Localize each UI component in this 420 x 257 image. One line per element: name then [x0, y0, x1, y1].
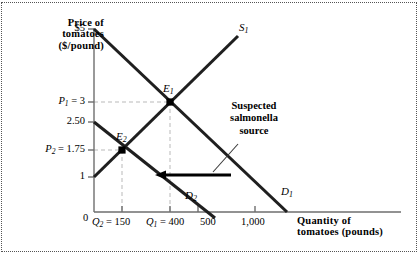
equilibrium-point-e2: [118, 146, 125, 153]
y-axis-ticks: [88, 29, 94, 177]
x-tick-label-q2-value: = 150: [103, 216, 130, 227]
x-axis-title: Quantity of tomatoes (pounds): [297, 215, 415, 238]
x-axis-title-line2: tomatoes (pounds): [297, 226, 383, 237]
x-tick-label-q1-value: = 400: [157, 216, 184, 227]
y-tick-label-1-text: 1: [80, 170, 85, 181]
y-tick-label-250-text: 2.50: [67, 115, 85, 126]
y-tick-label-1: 1: [60, 170, 85, 181]
y-tick-label-p2: P2 = 1.75: [16, 143, 85, 156]
equilibrium-label-e2-subscript: 2: [123, 135, 127, 144]
supply-curve-label-s1-subscript: 1: [245, 26, 249, 35]
annotation-line-3: source: [240, 125, 269, 136]
origin-label-text: 0: [83, 212, 88, 223]
y-tick-label-5-text: $5: [75, 22, 86, 33]
demand-curve-label-d2-subscript: 2: [193, 194, 197, 203]
x-tick-label-q1: Q1 = 400: [146, 216, 184, 229]
x-tick-label-500: 500: [200, 216, 216, 227]
equilibrium-label-e1-symbol: E: [163, 82, 170, 94]
x-tick-label-q1-symbol: Q: [146, 216, 154, 227]
x-axis-title-line1: Quantity of: [297, 215, 351, 226]
y-tick-label-p1-value: = 3: [69, 95, 85, 106]
equilibrium-label-e1-subscript: 1: [170, 87, 174, 96]
equilibrium-point-e1: [166, 98, 173, 105]
supply-curve-s1: [94, 36, 238, 177]
equilibrium-label-e2-symbol: E: [116, 130, 123, 142]
supply-curve-label-s1: S1: [239, 22, 248, 36]
y-axis-title-line3: ($/pound): [58, 40, 104, 51]
x-axis-ticks: [122, 206, 255, 212]
equilibrium-label-e1: E1: [163, 83, 174, 97]
annotation-suspected-source: Suspected salmonella source: [218, 100, 290, 137]
demand-curve-label-d2-symbol: D: [185, 189, 193, 201]
x-tick-label-500-text: 500: [200, 216, 216, 227]
x-tick-label-q2: Q2 = 150: [92, 216, 130, 229]
y-tick-label-250: 2.50: [44, 115, 85, 126]
guide-lines: [94, 102, 170, 212]
x-tick-label-q2-symbol: Q: [92, 216, 100, 227]
origin-label: 0: [83, 212, 88, 223]
demand-curve-label-d1-subscript: 1: [289, 190, 293, 199]
y-tick-label-p1: P1 = 3: [26, 95, 85, 108]
annotation-line-2: salmonella: [230, 112, 278, 123]
demand-curve-label-d1-symbol: D: [281, 185, 289, 197]
annotation-line-1: Suspected: [232, 100, 277, 111]
equilibrium-label-e2: E2: [116, 131, 127, 145]
y-axis-title: Price of tomatoes ($/pound): [8, 17, 104, 51]
demand-curve-label-d2: D2: [185, 190, 197, 204]
demand-curve-label-d1: D1: [281, 186, 293, 200]
x-tick-label-1000-text: 1,000: [241, 216, 265, 227]
x-tick-label-1000: 1,000: [241, 216, 265, 227]
y-tick-label-p2-value: = 1.75: [55, 143, 85, 154]
y-tick-label-5: $5: [58, 22, 85, 33]
annotation-leader-line: [213, 144, 238, 172]
figure-container: Price of tomatoes ($/pound) Quantity of …: [0, 0, 420, 257]
